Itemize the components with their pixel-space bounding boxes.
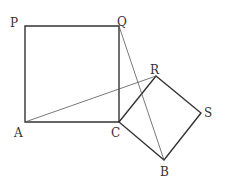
segment-QB <box>119 26 164 160</box>
label-Q: Q <box>117 15 127 29</box>
label-S: S <box>204 106 212 120</box>
segment-AR <box>25 76 156 122</box>
label-A: A <box>13 126 23 140</box>
label-C: C <box>111 126 120 140</box>
geometry-diagram: P Q R S A C B <box>0 0 226 184</box>
square-APQC <box>25 26 119 122</box>
label-P: P <box>10 16 18 30</box>
label-R: R <box>150 63 160 77</box>
label-B: B <box>160 165 169 179</box>
